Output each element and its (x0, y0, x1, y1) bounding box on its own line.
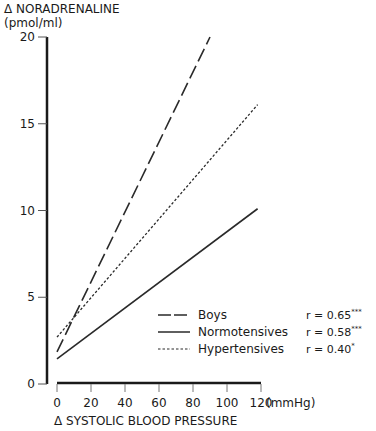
x-axis-unit: (mmHg) (266, 396, 315, 410)
y-tick-label: 15 (20, 117, 35, 131)
legend-r-value: r = 0.40* (306, 342, 355, 356)
legend-r-value: r = 0.65*** (306, 308, 362, 322)
y-tick-label: 0 (27, 377, 35, 391)
legend-label: Normotensives (198, 325, 288, 339)
legend-label: Hypertensives (198, 342, 284, 356)
y-tick-label: 20 (20, 30, 35, 44)
y-tick-label: 10 (20, 204, 35, 218)
x-tick-label: 40 (117, 396, 132, 410)
x-tick-label: 60 (151, 396, 166, 410)
chart: Δ NORADRENALINE (pmol/ml) 05101520 02040… (0, 0, 376, 431)
series-line-hypertensives (57, 105, 258, 337)
legend-r-value: r = 0.58*** (306, 325, 362, 339)
x-tick-label: 20 (83, 396, 98, 410)
x-tick-label: 80 (185, 396, 200, 410)
series-line-boys (57, 37, 210, 352)
y-ticks: 05101520 (20, 30, 47, 391)
x-axis-title: Δ SYSTOLIC BLOOD PRESSURE (54, 414, 237, 428)
y-axis-unit: (pmol/ml) (4, 16, 62, 30)
x-tick-label: 0 (53, 396, 61, 410)
x-ticks: 020406080100120 (53, 384, 272, 410)
x-tick-label: 100 (216, 396, 239, 410)
y-tick-label: 5 (27, 290, 35, 304)
y-axis-title: Δ NORADRENALINE (4, 2, 120, 16)
legend: Boysr = 0.65***Normotensivesr = 0.58***H… (158, 308, 362, 356)
legend-label: Boys (198, 308, 227, 322)
series-lines (57, 37, 258, 359)
